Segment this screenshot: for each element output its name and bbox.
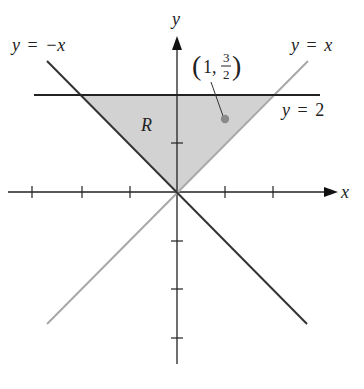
svg-text:3: 3: [223, 50, 230, 65]
svg-text:y = −x: y = −x: [10, 35, 65, 55]
label-y-equals-neg-x: y = −x: [10, 35, 65, 55]
diagram-canvas: y x R y = −x y = x y = 2: [0, 0, 364, 389]
point-marker: [221, 115, 229, 123]
svg-text:y = 2: y = 2: [280, 100, 324, 120]
x-axis-arrow-icon: [324, 187, 338, 197]
svg-text:y = x: y = x: [289, 35, 332, 55]
figure-region-r: y x R y = −x y = x y = 2: [0, 0, 364, 389]
y-axis-label: y: [170, 9, 180, 29]
point-label: ( 1, 3 2 ): [192, 50, 241, 82]
svg-text:(: (: [192, 50, 201, 81]
region-label: R: [140, 115, 152, 135]
label-y-equals-x: y = x: [289, 35, 332, 55]
svg-text:1,: 1,: [203, 57, 217, 77]
svg-text:2: 2: [223, 67, 230, 82]
svg-text:): ): [232, 50, 241, 81]
x-axis-label: x: [340, 182, 349, 202]
label-y-equals-2: y = 2: [280, 100, 324, 120]
y-axis-arrow-icon: [172, 36, 182, 50]
